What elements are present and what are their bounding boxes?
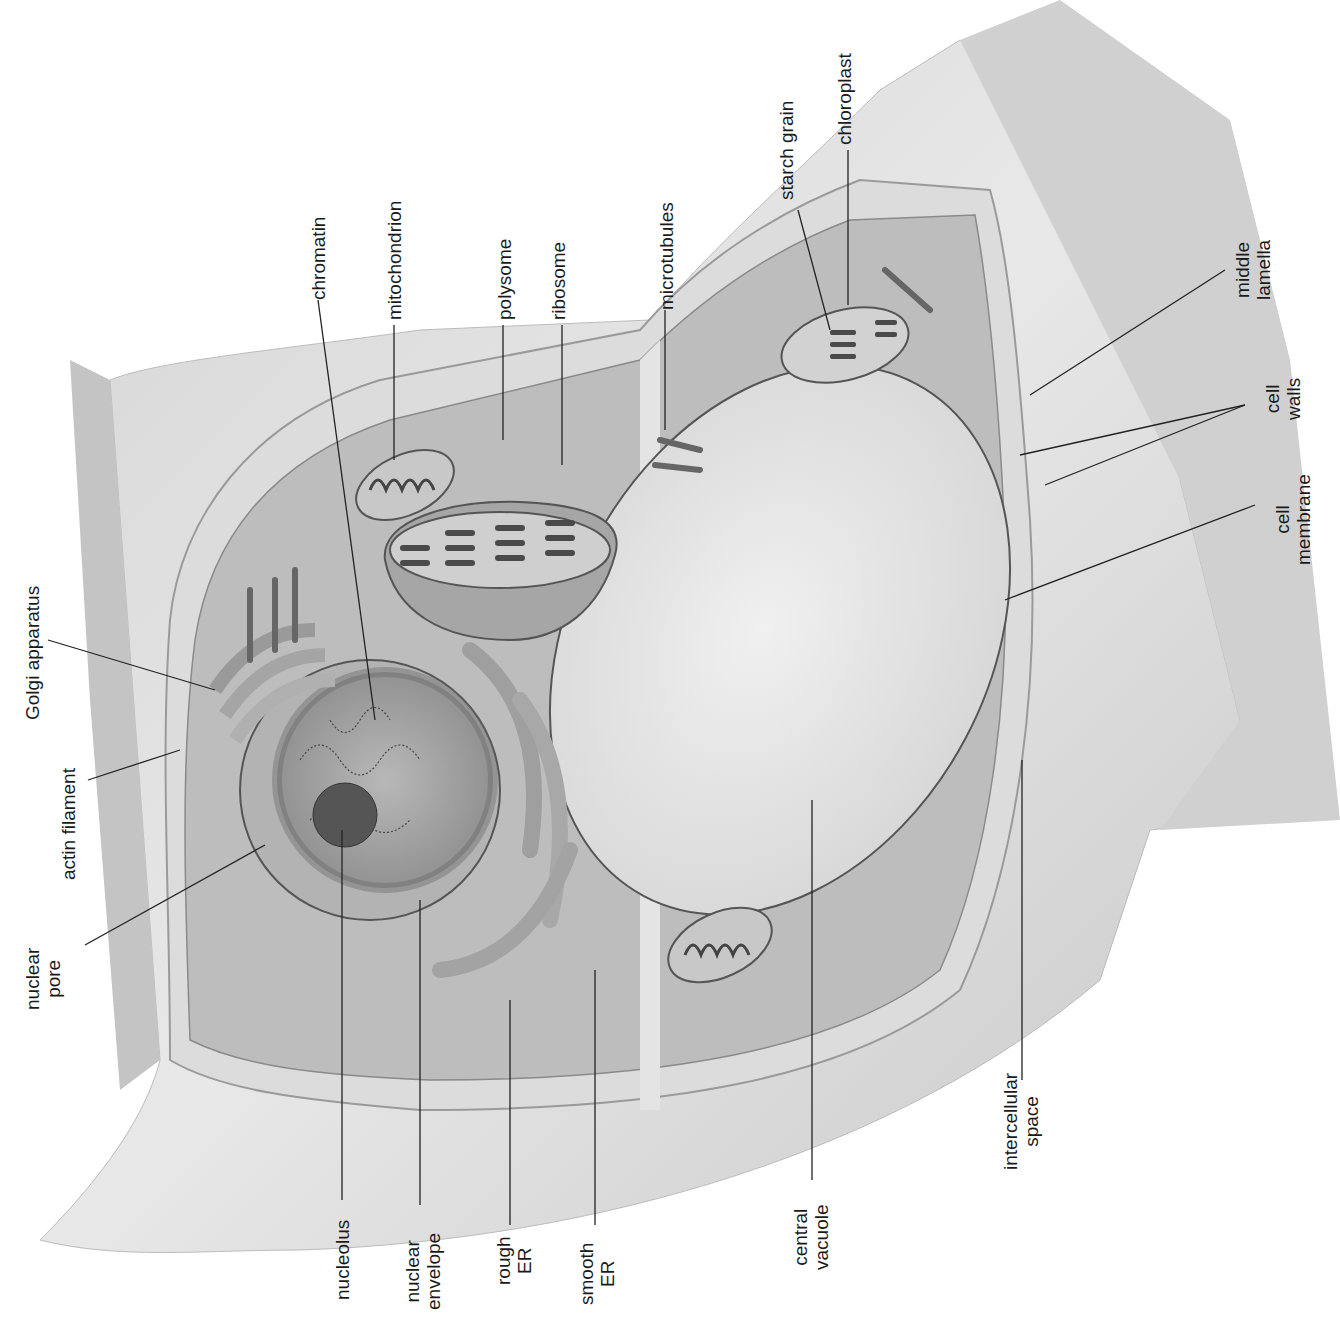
label-smooth-er: smooth ER [576, 1243, 618, 1305]
label-nucleolus: nucleolus [332, 1220, 353, 1300]
label-golgi-apparatus: Golgi apparatus [22, 586, 43, 720]
label-chromatin: chromatin [308, 217, 329, 300]
label-central-vacuole: central vacuole [790, 1205, 832, 1271]
label-middle-lamella: middle lamella [1232, 240, 1274, 300]
label-rough-er: rough ER [493, 1236, 535, 1285]
nucleolus [313, 783, 377, 847]
label-nuclear-pore: nuclear pore [22, 948, 64, 1010]
plant-cell-diagram [0, 0, 1340, 1317]
label-nuclear-envelope: nuclear envelope [402, 1233, 444, 1310]
label-chloroplast: chloroplast [834, 53, 855, 145]
label-cell-walls: cell walls [1262, 378, 1304, 420]
label-ribosome: ribosome [548, 242, 569, 320]
label-polysome: polysome [494, 239, 515, 320]
label-intercellular-space: intercellular space [1000, 1073, 1042, 1170]
label-cell-membrane: cell membrane [1272, 474, 1314, 565]
label-starch-grain: starch grain [776, 101, 797, 200]
label-mitochondrion: mitochondrion [384, 201, 405, 320]
label-actin-filament: actin filament [58, 768, 79, 880]
label-microtubules: microtubules [656, 202, 677, 310]
